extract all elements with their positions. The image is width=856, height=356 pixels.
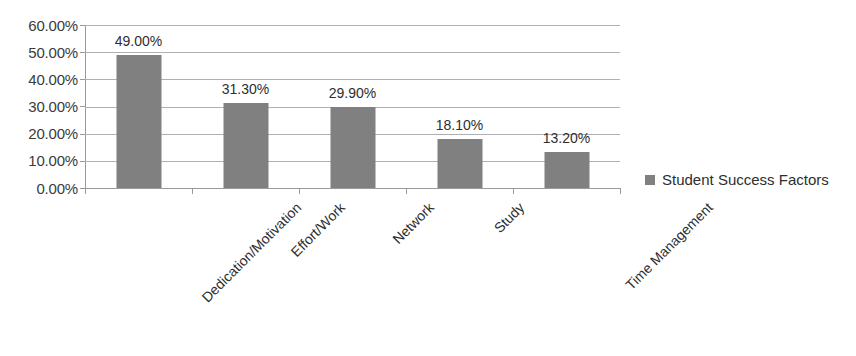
- x-tick-mark: [620, 188, 621, 194]
- x-axis-label-dedication-motivation: Dedication/Motivation: [199, 200, 304, 305]
- x-tick-mark: [85, 188, 86, 194]
- legend-square-marker-icon: [645, 175, 655, 185]
- y-tick-label: 50.00%: [2, 45, 78, 60]
- bar[interactable]: [330, 107, 375, 188]
- bar[interactable]: [544, 152, 589, 188]
- x-axis-baseline: [85, 188, 620, 189]
- bar-value-label: 18.10%: [436, 118, 483, 132]
- x-tick-mark: [513, 188, 514, 194]
- x-axis-label-study: Study: [491, 200, 526, 235]
- bar[interactable]: [223, 103, 268, 188]
- y-tick-label: 60.00%: [2, 18, 78, 33]
- y-tick-label: 30.00%: [2, 99, 78, 114]
- bar-group[interactable]: 13.20%: [513, 25, 620, 188]
- legend[interactable]: Student Success Factors: [645, 172, 829, 187]
- legend-label: Student Success Factors: [662, 172, 829, 187]
- bar-group[interactable]: 31.30%: [192, 25, 299, 188]
- bar-group[interactable]: 18.10%: [406, 25, 513, 188]
- bar-value-label: 31.30%: [222, 82, 269, 96]
- bar-group[interactable]: 49.00%: [85, 25, 192, 188]
- bar-value-label: 49.00%: [115, 34, 162, 48]
- bar-chart: 60.00% 50.00% 40.00% 30.00% 20.00% 10.00…: [0, 0, 856, 356]
- bar-value-label: 13.20%: [543, 131, 590, 145]
- y-tick-label: 0.00%: [2, 181, 78, 196]
- x-axis-label-network: Network: [390, 200, 436, 246]
- x-axis-label-time-management: Time Management: [623, 200, 715, 292]
- bar[interactable]: [437, 139, 482, 188]
- bar-value-label: 29.90%: [329, 86, 376, 100]
- y-axis-tick-labels: 60.00% 50.00% 40.00% 30.00% 20.00% 10.00…: [0, 0, 78, 356]
- y-tick-label: 20.00%: [2, 126, 78, 141]
- x-tick-mark: [192, 188, 193, 194]
- bar-group[interactable]: 29.90%: [299, 25, 406, 188]
- x-tick-mark: [406, 188, 407, 194]
- x-tick-mark: [299, 188, 300, 194]
- plot-area: 49.00% 31.30% 29.90% 18.10% 13.20%: [85, 25, 620, 188]
- y-tick-label: 10.00%: [2, 153, 78, 168]
- bar[interactable]: [116, 55, 161, 188]
- y-tick-label: 40.00%: [2, 72, 78, 87]
